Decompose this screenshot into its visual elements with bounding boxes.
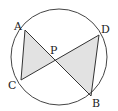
label-d: D bbox=[101, 23, 110, 36]
label-c: C bbox=[8, 79, 16, 92]
label-p: P bbox=[50, 44, 58, 57]
label-a: A bbox=[13, 20, 23, 33]
geometry-diagram: A D C B P bbox=[0, 0, 118, 111]
label-b: B bbox=[92, 97, 100, 110]
